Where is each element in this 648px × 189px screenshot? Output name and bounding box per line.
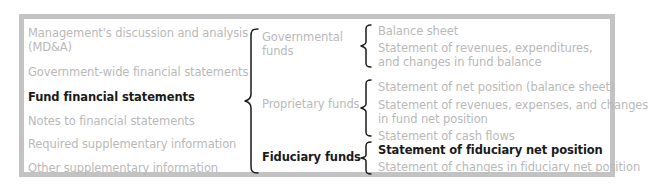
fund-type-governmental-line1: Governmental <box>262 30 343 44</box>
statement-revenues-expenditures-line2: and changes in fund balance <box>378 55 542 69</box>
statement-fiduciary-net-position: Statement of fiduciary net position <box>378 143 603 157</box>
statement-net-position: Statement of net position (balance sheet… <box>378 80 614 94</box>
component-notes: Notes to financial statements <box>28 114 195 128</box>
component-mdna-line2: (MD&A) <box>28 40 72 54</box>
component-required-supplementary: Required supplementary information <box>28 137 236 151</box>
statement-revenues-expenses-line1: Statement of revenues, expenses, and cha… <box>378 98 648 112</box>
fund-types-brace-icon <box>244 28 264 174</box>
statement-revenues-expenditures-line1: Statement of revenues, expenditures, <box>378 41 593 55</box>
fiduciary-statements-brace-icon <box>359 141 375 175</box>
fund-type-proprietary: Proprietary funds <box>262 97 360 111</box>
component-fund-financial-statements: Fund financial statements <box>28 90 195 104</box>
component-other-supplementary: Other supplementary information <box>28 161 218 175</box>
statement-balance-sheet: Balance sheet <box>378 24 458 38</box>
fund-type-fiduciary: Fiduciary funds <box>262 150 361 164</box>
governmental-statements-brace-icon <box>359 24 375 68</box>
proprietary-statements-brace-icon <box>359 79 375 137</box>
statement-revenues-expenses-line2: in fund net position <box>378 112 488 126</box>
fund-type-governmental-line2: funds <box>262 44 293 58</box>
component-mdna-line1: Management's discussion and analysis <box>28 26 248 40</box>
component-government-wide: Government-wide financial statements <box>28 65 248 79</box>
statement-changes-fiduciary-net-position: Statement of changes in fiduciary net po… <box>378 160 640 174</box>
statement-cash-flows: Statement of cash flows <box>378 129 515 143</box>
